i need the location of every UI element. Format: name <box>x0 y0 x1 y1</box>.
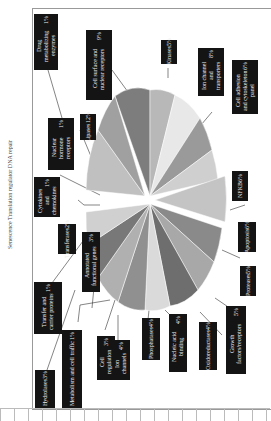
label-transfer: Transfer and carrier proteins1% <box>34 282 62 334</box>
label-nfkb: NFKB6% <box>232 171 248 201</box>
label-cytokines: Cytokines and chemokines1% <box>34 177 60 217</box>
label-proteases: Proteases5% <box>240 266 256 296</box>
label-cellreg: Cell regulation3% <box>97 336 115 380</box>
label-kinases: Kinases5% <box>161 40 177 64</box>
label-lipases: Lipases12% <box>80 114 96 140</box>
legend-entry: Senescence <box>7 221 13 249</box>
label-nuclear: Nuclear hormone receptors1% <box>48 118 74 170</box>
label-oxido: Oxidoreductases4% <box>199 322 217 370</box>
label-hydro: Hydrolases3% <box>35 370 55 408</box>
label-cellsurf: Cell surface and nuclear receptors9% <box>86 30 112 100</box>
label-apoptosis: Apoptosis6% <box>238 222 256 252</box>
label-phosph: Phosphatases4% <box>142 318 160 360</box>
label-ion: Ion channel and transporters8% <box>198 48 224 96</box>
legend-entry: Translation regulator <box>7 170 13 220</box>
label-metab: Metabolism and cell traffic1% <box>62 330 82 408</box>
label-adhesion: Cell adhesion and cytoskeleton panel6% <box>232 60 258 114</box>
legend-entry: DNA repair <box>7 140 13 168</box>
label-drug: Drug metabolizing enzymes1% <box>34 14 58 70</box>
label-growth: Growth factors/receptors5% <box>226 306 246 374</box>
legend: Senescence Translation regulator DNA rep… <box>6 140 15 249</box>
label-annotated: Annotated functional genes3% <box>82 232 100 292</box>
label-nucleic: Nucleic acid binding4% <box>169 314 187 372</box>
pie-slices <box>86 88 227 311</box>
label-transferases: Transferases2% <box>58 224 76 254</box>
